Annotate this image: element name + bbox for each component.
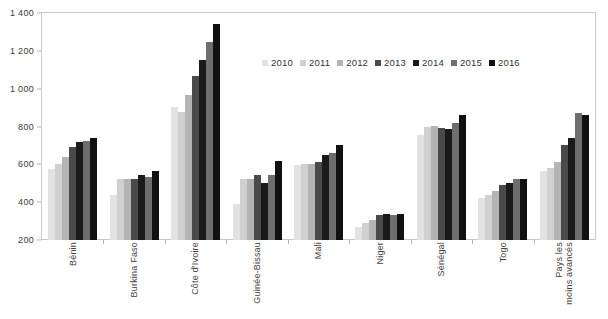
x-axis-label-cell: Bénin bbox=[42, 242, 103, 319]
x-axis-label: Sénégal bbox=[436, 242, 446, 276]
y-axis-tick-label: 1 000 bbox=[10, 84, 34, 94]
bar-group bbox=[411, 13, 472, 240]
bar bbox=[213, 24, 220, 240]
bar bbox=[152, 171, 159, 240]
bar-group bbox=[534, 13, 595, 240]
bar bbox=[561, 145, 568, 240]
x-axis-label: Bénin bbox=[68, 242, 78, 266]
legend-swatch-icon bbox=[337, 60, 343, 66]
legend-swatch-icon bbox=[262, 60, 268, 66]
legend-swatch-icon bbox=[300, 60, 306, 66]
bar-groups bbox=[42, 13, 595, 240]
bar bbox=[240, 179, 247, 240]
bar bbox=[275, 161, 282, 240]
y-axis: 2004006008001 0001 2001 400 bbox=[0, 0, 41, 240]
legend-label: 2016 bbox=[498, 57, 520, 68]
bar bbox=[547, 168, 554, 240]
x-axis-label-cell: Côte d'Ivoire bbox=[165, 242, 226, 319]
bar bbox=[452, 123, 459, 240]
bar bbox=[171, 107, 178, 240]
x-axis-label: Côte d'Ivoire bbox=[190, 242, 200, 295]
legend-label: 2010 bbox=[271, 57, 293, 68]
y-axis-tick-label: 200 bbox=[18, 235, 34, 245]
x-axis-label: Mali bbox=[313, 242, 323, 259]
bar bbox=[478, 198, 485, 240]
bar bbox=[438, 128, 445, 240]
bar bbox=[492, 191, 499, 240]
x-axis-label-cell: Burkina Faso bbox=[103, 242, 164, 319]
bar bbox=[62, 157, 69, 240]
bar bbox=[199, 60, 206, 240]
bar bbox=[376, 215, 383, 240]
x-axis-label: Togo bbox=[498, 242, 508, 262]
bar bbox=[431, 126, 438, 240]
x-axis-label: Niger bbox=[375, 242, 385, 265]
legend-item-2012: 2012 bbox=[337, 57, 368, 68]
bar bbox=[69, 147, 76, 240]
bar bbox=[322, 155, 329, 240]
bar bbox=[247, 179, 254, 240]
x-axis-label-cell: Togo bbox=[472, 242, 533, 319]
x-axis-label-cell: Mali bbox=[288, 242, 349, 319]
legend-swatch-icon bbox=[451, 60, 457, 66]
bar bbox=[513, 179, 520, 240]
y-axis-tick-label: 800 bbox=[18, 122, 34, 132]
bar-group bbox=[165, 13, 226, 240]
x-axis-label-cell: Guinée-Bissau bbox=[226, 242, 287, 319]
bar-group bbox=[349, 13, 410, 240]
legend-label: 2012 bbox=[346, 57, 368, 68]
legend-label: 2015 bbox=[460, 57, 482, 68]
bar bbox=[110, 195, 117, 240]
y-axis-tick-label: 400 bbox=[18, 197, 34, 207]
y-axis-tick-label: 600 bbox=[18, 159, 34, 169]
bar bbox=[268, 175, 275, 240]
bar bbox=[178, 112, 185, 240]
bar-group bbox=[103, 13, 164, 240]
legend-item-2015: 2015 bbox=[451, 57, 482, 68]
bar bbox=[233, 204, 240, 240]
bar bbox=[383, 214, 390, 240]
bar bbox=[206, 42, 213, 240]
legend-label: 2014 bbox=[422, 57, 444, 68]
bar-chart: 2004006008001 0001 2001 400 201020112012… bbox=[0, 0, 608, 319]
legend-swatch-icon bbox=[489, 60, 495, 66]
bar bbox=[55, 164, 62, 240]
bar bbox=[124, 179, 131, 240]
bar bbox=[315, 162, 322, 241]
bar-group bbox=[288, 13, 349, 240]
bar bbox=[445, 129, 452, 240]
legend-item-2016: 2016 bbox=[489, 57, 520, 68]
x-axis-label-cell: Sénégal bbox=[411, 242, 472, 319]
bar bbox=[254, 175, 261, 240]
bar-group bbox=[226, 13, 287, 240]
x-axis-label-cell: Niger bbox=[349, 242, 410, 319]
bar bbox=[554, 162, 561, 241]
bar bbox=[83, 141, 90, 240]
bar-group bbox=[42, 13, 103, 240]
bar bbox=[582, 115, 589, 240]
bar bbox=[336, 145, 343, 240]
bar bbox=[424, 127, 431, 241]
bar bbox=[417, 135, 424, 240]
bar bbox=[294, 165, 301, 240]
legend-swatch-icon bbox=[413, 60, 419, 66]
legend-item-2013: 2013 bbox=[375, 57, 406, 68]
bar bbox=[131, 179, 138, 240]
bar bbox=[48, 169, 55, 240]
legend-swatch-icon bbox=[375, 60, 381, 66]
bar bbox=[506, 183, 513, 240]
bar bbox=[145, 177, 152, 240]
legend-label: 2013 bbox=[384, 57, 406, 68]
bar bbox=[329, 153, 336, 240]
bar bbox=[76, 142, 83, 240]
bar bbox=[520, 179, 527, 240]
bar-group bbox=[472, 13, 533, 240]
bar bbox=[459, 115, 466, 240]
bar bbox=[485, 195, 492, 240]
bar bbox=[390, 215, 397, 240]
x-axis-label: Burkina Faso bbox=[129, 242, 139, 297]
bar bbox=[568, 138, 575, 240]
legend-item-2010: 2010 bbox=[262, 57, 293, 68]
legend-item-2011: 2011 bbox=[300, 57, 330, 68]
plot-area bbox=[42, 13, 595, 240]
